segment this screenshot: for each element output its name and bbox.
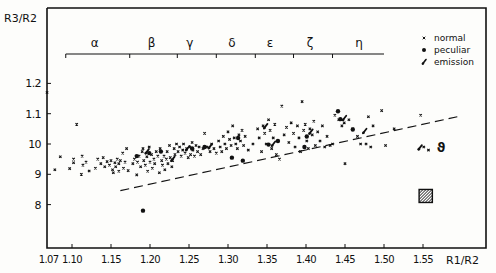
y-tick-label: 10 bbox=[28, 138, 41, 151]
point-normal bbox=[260, 150, 262, 152]
legend-marker-normal bbox=[423, 37, 426, 40]
point-normal bbox=[100, 162, 102, 164]
point-emission-head bbox=[342, 118, 345, 121]
point-peculiar bbox=[302, 145, 306, 149]
point-normal bbox=[370, 146, 372, 148]
point-normal bbox=[311, 134, 313, 136]
point-normal bbox=[111, 169, 113, 171]
point-normal bbox=[148, 146, 150, 148]
group-label-ζ: ζ bbox=[307, 36, 314, 50]
point-normal bbox=[146, 156, 148, 158]
point-normal bbox=[155, 150, 157, 152]
group-label-η: η bbox=[355, 36, 363, 50]
point-normal bbox=[252, 143, 254, 145]
point-normal bbox=[365, 143, 367, 145]
point-normal bbox=[108, 164, 110, 166]
point-normal bbox=[169, 156, 171, 158]
point-normal bbox=[177, 150, 179, 152]
x-tick-label: 1.25 bbox=[179, 254, 199, 265]
point-normal bbox=[224, 143, 226, 145]
point-normal bbox=[348, 119, 350, 121]
point-normal bbox=[423, 146, 425, 148]
point-normal bbox=[174, 153, 176, 155]
point-normal bbox=[341, 125, 343, 127]
point-normal bbox=[227, 131, 229, 133]
point-normal bbox=[317, 131, 319, 133]
point-normal bbox=[359, 143, 361, 145]
point-normal bbox=[153, 158, 155, 160]
point-normal bbox=[285, 126, 287, 128]
point-normal bbox=[343, 122, 345, 124]
legend: normalpeculiaremission bbox=[422, 33, 474, 67]
theta-label: ϑ bbox=[437, 140, 446, 155]
point-normal bbox=[139, 166, 141, 168]
point-normal bbox=[118, 170, 120, 172]
point-normal bbox=[326, 135, 328, 137]
point-normal bbox=[298, 137, 300, 139]
point-normal bbox=[114, 166, 116, 168]
point-normal bbox=[281, 105, 283, 107]
point-normal bbox=[356, 135, 358, 137]
point-normal bbox=[112, 172, 114, 174]
point-normal bbox=[102, 156, 104, 158]
y-tick-label: 8 bbox=[35, 199, 42, 212]
point-normal bbox=[97, 158, 99, 160]
group-label-α: α bbox=[91, 36, 99, 50]
y-tick-label: 1.1 bbox=[25, 108, 41, 121]
point-normal bbox=[72, 162, 74, 164]
point-normal bbox=[85, 161, 87, 163]
point-normal bbox=[301, 100, 303, 102]
point-normal bbox=[380, 109, 382, 111]
point-normal bbox=[219, 146, 221, 148]
y-tick-label: 1.2 bbox=[25, 77, 41, 90]
point-peculiar bbox=[141, 208, 145, 212]
point-normal bbox=[275, 153, 277, 155]
point-normal bbox=[215, 152, 217, 154]
point-normal bbox=[230, 144, 232, 146]
point-peculiar bbox=[276, 139, 280, 143]
x-axis-label: R1/R2 bbox=[446, 254, 479, 267]
point-emission-head bbox=[263, 127, 266, 130]
point-normal bbox=[133, 158, 135, 160]
point-normal bbox=[309, 128, 311, 130]
point-normal bbox=[213, 147, 215, 149]
legend-label-emission: emission bbox=[434, 57, 474, 67]
point-normal bbox=[193, 155, 195, 157]
point-normal bbox=[427, 149, 429, 151]
legend-label-peculiar: peculiar bbox=[434, 45, 470, 55]
point-normal bbox=[292, 132, 294, 134]
point-normal bbox=[242, 144, 244, 146]
point-normal bbox=[225, 147, 227, 149]
legend-label-normal: normal bbox=[434, 33, 466, 43]
x-tick-label: 1.20 bbox=[140, 254, 160, 265]
point-normal bbox=[272, 137, 274, 139]
point-normal bbox=[142, 147, 144, 149]
point-normal bbox=[203, 132, 205, 134]
point-normal bbox=[153, 162, 155, 164]
legend-marker-peculiar bbox=[422, 48, 426, 52]
group-label-γ: γ bbox=[186, 36, 193, 50]
x-tick-label: 1.40 bbox=[296, 254, 316, 265]
point-normal bbox=[178, 146, 180, 148]
x-tick-label: 1.30 bbox=[218, 254, 238, 265]
x-tick-label: 1.15 bbox=[101, 254, 121, 265]
dashed-line bbox=[120, 117, 457, 191]
point-normal bbox=[158, 172, 160, 174]
point-peculiar bbox=[266, 142, 270, 146]
point-normal bbox=[175, 143, 177, 145]
point-normal bbox=[149, 161, 151, 163]
point-normal bbox=[296, 125, 298, 127]
point-normal bbox=[187, 156, 189, 158]
point-normal bbox=[161, 159, 163, 161]
point-peculiar bbox=[241, 158, 245, 162]
x-tick-label: 1.55 bbox=[413, 254, 433, 265]
point-normal bbox=[198, 146, 200, 148]
point-normal bbox=[419, 114, 421, 116]
point-normal bbox=[161, 164, 163, 166]
point-normal bbox=[239, 140, 241, 142]
hatch-line bbox=[407, 189, 420, 202]
point-normal bbox=[182, 149, 184, 151]
point-emission-head bbox=[208, 147, 211, 150]
point-normal bbox=[110, 159, 112, 161]
point-normal bbox=[164, 169, 166, 171]
